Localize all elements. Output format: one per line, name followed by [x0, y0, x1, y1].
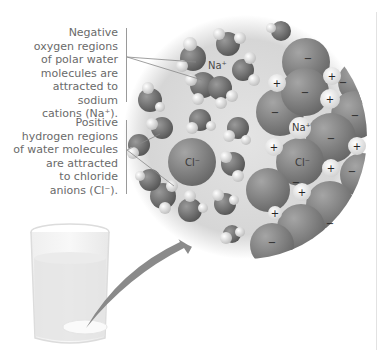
- page-margin-rule: [376, 12, 377, 350]
- sodium-label-crystal: Na⁺: [292, 122, 311, 133]
- svg-text:+: +: [273, 78, 281, 89]
- caption-chloride-attraction: Positive hydrogen regions of water molec…: [10, 116, 118, 197]
- sodium-label-hydrated: Na⁺: [208, 60, 227, 71]
- svg-text:−: −: [327, 133, 335, 144]
- svg-text:−: −: [301, 87, 309, 98]
- svg-text:+: +: [271, 208, 279, 219]
- svg-text:+: +: [326, 94, 334, 105]
- svg-text:+: +: [353, 141, 361, 152]
- chloride-label-hydrated: Cl⁻: [185, 157, 200, 168]
- svg-text:−: −: [326, 218, 334, 229]
- svg-text:+: +: [270, 142, 278, 153]
- svg-text:−: −: [271, 107, 279, 118]
- beaker-icon: [31, 224, 109, 343]
- svg-text:+: +: [328, 71, 336, 82]
- svg-text:−: −: [292, 177, 300, 188]
- svg-text:−: −: [268, 237, 276, 248]
- svg-text:−: −: [304, 53, 312, 64]
- svg-text:+: +: [298, 187, 306, 198]
- svg-text:+: +: [327, 163, 335, 174]
- caption-rule-top: [126, 28, 127, 102]
- svg-text:−: −: [351, 110, 359, 121]
- caption-sodium-attraction: Negative oxygen regions of polar water m…: [10, 26, 118, 121]
- svg-text:−: −: [348, 166, 356, 177]
- svg-text:−: −: [339, 77, 347, 88]
- chloride-label-crystal: Cl⁻: [295, 157, 310, 168]
- caption-rule-bottom: [126, 120, 127, 194]
